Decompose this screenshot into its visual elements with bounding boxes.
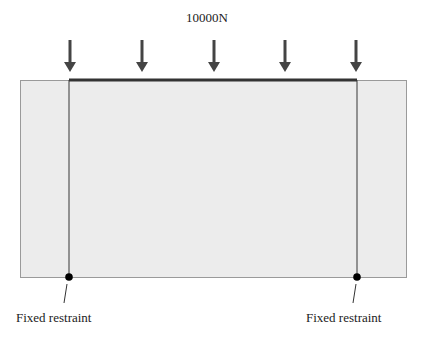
support-label-left: Fixed restraint bbox=[16, 310, 91, 326]
load-arrows bbox=[64, 40, 362, 72]
arrow-icon bbox=[350, 40, 362, 72]
support-dot-right bbox=[353, 273, 361, 281]
arrow-icon bbox=[136, 40, 148, 72]
diagram-canvas: 10000N Fixed restraint Fixed restraint bbox=[0, 0, 428, 340]
support-label-right: Fixed restraint bbox=[306, 310, 381, 326]
load-label: 10000N bbox=[186, 10, 228, 26]
arrow-icon bbox=[64, 40, 76, 72]
arrow-icon bbox=[208, 40, 220, 72]
diagram-svg bbox=[0, 0, 428, 340]
outer-plate bbox=[21, 81, 407, 278]
leader-line-right bbox=[353, 284, 356, 303]
leader-line-left bbox=[64, 284, 67, 303]
arrow-icon bbox=[279, 40, 291, 72]
support-dot-left bbox=[65, 273, 73, 281]
